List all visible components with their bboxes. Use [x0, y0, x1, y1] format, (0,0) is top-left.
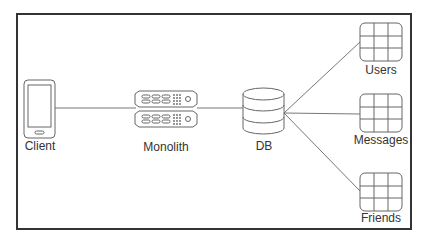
- server-rack-icon: [135, 91, 197, 127]
- node-label-db: DB: [256, 139, 273, 153]
- diagram-canvas: Client Monolith DB Users Messages Friend…: [0, 0, 423, 239]
- node-label-client: Client: [25, 139, 56, 153]
- mobile-phone-icon: [24, 80, 55, 138]
- diagram-graphics: [0, 0, 423, 239]
- edge-db-friends: [284, 113, 360, 191]
- table-grid-icon-users: [360, 23, 402, 61]
- node-label-friends: Friends: [361, 211, 401, 225]
- table-grid-icon-friends: [360, 173, 402, 211]
- edges: [55, 42, 360, 191]
- edge-db-messages: [284, 113, 360, 114]
- edge-db-users: [284, 42, 360, 113]
- node-label-users: Users: [365, 63, 396, 77]
- node-label-messages: Messages: [354, 133, 409, 147]
- database-icon: [243, 88, 284, 134]
- node-label-monolith: Monolith: [143, 140, 188, 154]
- table-grid-icon-messages: [360, 94, 402, 132]
